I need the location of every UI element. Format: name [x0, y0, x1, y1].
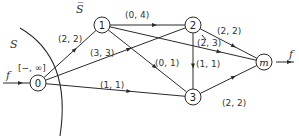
node-label: 3	[190, 92, 196, 103]
node-label: 0	[35, 78, 41, 89]
edge-arrowhead-2-m	[231, 43, 237, 49]
flow-network-diagram: S S̅ (2, 2)(3, 3)(1, 1)(0, 4)(0, 1)(2, 3…	[0, 0, 299, 138]
flow-out-label: f	[288, 48, 295, 61]
edge-arrowhead-1-2	[152, 23, 157, 27]
set-label-s: S	[10, 38, 18, 51]
node-label: 2	[190, 20, 196, 31]
node-3: 3	[185, 89, 201, 105]
node-1: 1	[94, 17, 110, 33]
node-2: 2	[185, 17, 201, 33]
set-label-s-bar: S̅	[76, 2, 84, 16]
edge-label-3-m: (2, 2)	[222, 98, 246, 108]
edge-label-2-3: (1, 1)	[196, 59, 220, 69]
edge-label-1-m: (2, 3)	[197, 38, 221, 48]
node-label: 1	[99, 20, 105, 31]
edge-arrowhead-3-m	[231, 74, 237, 80]
edge-label-0-2: (3, 3)	[90, 48, 114, 58]
edge-3-m	[200, 66, 257, 94]
flow-in-arrowhead	[18, 81, 23, 85]
source-label: [−, ∞]	[18, 63, 46, 73]
node-m: m	[256, 54, 272, 70]
edge-label-0-1: (2, 2)	[58, 34, 82, 44]
edge-arrowhead-0-3	[126, 89, 131, 93]
flow-in-label: f	[5, 69, 12, 82]
node-label: m	[259, 57, 268, 68]
node-0: 0	[30, 75, 46, 91]
edge-label-1-3: (0, 1)	[155, 58, 179, 68]
edge-arrowhead-2-3	[191, 64, 195, 69]
edge-label-2-m: (2, 2)	[217, 26, 241, 36]
edge-label-1-2: (0, 4)	[125, 10, 149, 20]
edge-label-0-3: (1, 1)	[100, 80, 124, 90]
